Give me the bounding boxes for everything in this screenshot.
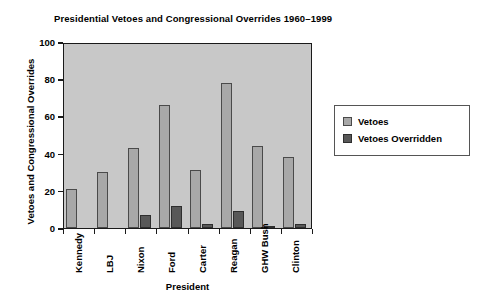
legend-item-vetoes-overridden: Vetoes Overridden [343, 130, 461, 147]
x-axis-tick [219, 229, 220, 234]
bar-reagan-vetoes [221, 83, 232, 228]
plot-area [63, 43, 312, 229]
bar-nixon-vetoes-overridden [140, 215, 151, 228]
x-axis-tick [312, 229, 313, 234]
bar-carter-vetoes [190, 170, 201, 228]
bar-ford-vetoes [159, 105, 170, 228]
bar-ghw-bush-vetoes [252, 146, 263, 228]
bar-ford-vetoes-overridden [171, 206, 182, 228]
y-tick-label: 100 [39, 37, 55, 48]
bar-reagan-vetoes-overridden [233, 211, 244, 228]
y-tick-label: 0 [50, 223, 55, 234]
y-axis: Vetoes and Congressional Overrides 02040… [0, 0, 63, 301]
x-axis-tick [156, 229, 157, 234]
x-axis-label-nixon: Nixon [135, 247, 146, 273]
x-axis-label-carter: Carter [197, 245, 208, 273]
x-axis-tick [188, 229, 189, 234]
x-axis-tick [125, 229, 126, 234]
y-tick-label: 60 [44, 111, 55, 122]
chart-title: Presidential Vetoes and Congressional Ov… [54, 13, 332, 24]
x-axis-tick [250, 229, 251, 234]
x-axis-tick [63, 229, 64, 234]
chart-figure: Presidential Vetoes and Congressional Ov… [0, 0, 481, 301]
bar-clinton-vetoes-overridden [295, 224, 306, 228]
x-axis-label-kennedy: Kennedy [73, 233, 84, 273]
legend-swatch-overridden [343, 134, 352, 143]
legend-label: Vetoes [358, 116, 389, 127]
bar-lbj-vetoes [97, 172, 108, 228]
y-axis-title: Vetoes and Congressional Overrides [25, 52, 36, 232]
x-axis-label-ghw-bush: GHW Bush [259, 223, 270, 273]
x-axis-label-clinton: Clinton [290, 240, 301, 273]
legend-item-vetoes: Vetoes [343, 113, 461, 130]
x-axis-tick [94, 229, 95, 234]
legend-swatch-vetoes [343, 117, 352, 126]
x-axis-tick [281, 229, 282, 234]
x-axis-title: President [63, 281, 312, 292]
y-tick-label: 80 [44, 74, 55, 85]
bar-nixon-vetoes [128, 148, 139, 228]
legend-label: Vetoes Overridden [358, 133, 442, 144]
x-axis-label-ford: Ford [166, 252, 177, 273]
bars-layer [64, 44, 311, 228]
bar-clinton-vetoes [283, 157, 294, 228]
x-axis-label-reagan: Reagan [228, 239, 239, 273]
bar-carter-vetoes-overridden [202, 224, 213, 228]
x-axis-label-lbj: LBJ [104, 255, 115, 273]
y-tick-label: 20 [44, 186, 55, 197]
chart-legend: VetoesVetoes Overridden [334, 105, 470, 156]
bar-kennedy-vetoes [66, 189, 77, 228]
y-tick-label: 40 [44, 149, 55, 160]
